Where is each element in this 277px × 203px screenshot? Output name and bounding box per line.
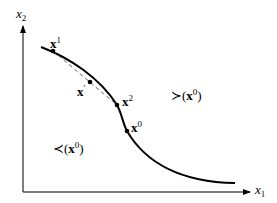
x-axis-label: x1	[255, 183, 265, 199]
lower-contour-label: ≺(x0)	[53, 141, 84, 155]
upper-contour-label: ≻(x0)	[171, 88, 202, 102]
point-x2	[115, 103, 120, 108]
indifference-curve	[41, 47, 235, 183]
point-xprime	[88, 80, 93, 85]
label-x1: x1	[50, 36, 61, 50]
label-x2: x2	[122, 94, 133, 108]
diagram-canvas	[0, 0, 277, 203]
label-xprime: x′	[77, 84, 85, 98]
y-axis-label: x2	[16, 7, 26, 23]
point-x0	[125, 129, 130, 134]
label-x0: x0	[131, 120, 142, 134]
